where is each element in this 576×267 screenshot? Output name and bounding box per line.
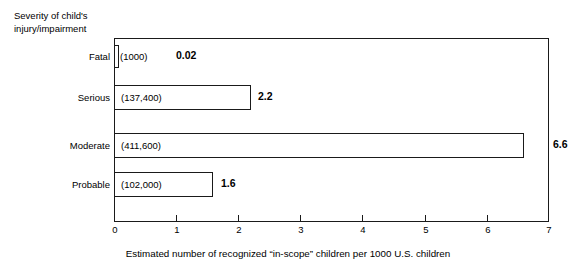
bar-value-fatal: 0.02: [176, 50, 196, 61]
x-tick-label-1: 1: [165, 224, 189, 235]
bar-moderate: [114, 133, 524, 158]
x-tick-label-3: 3: [289, 224, 313, 235]
x-tick-mark-3: [300, 215, 301, 222]
x-tick-label-0: 0: [103, 224, 127, 235]
x-tick-mark-4: [362, 215, 363, 222]
x-tick-mark-0: [114, 215, 115, 222]
bar-fatal: [114, 45, 119, 68]
category-label-fatal: Fatal: [18, 51, 110, 62]
x-tick-label-4: 4: [351, 224, 375, 235]
x-tick-mark-1: [176, 215, 177, 222]
x-tick-label-5: 5: [414, 224, 438, 235]
x-axis-title: Estimated number of recognized “in-scope…: [0, 248, 576, 260]
bar-value-serious: 2.2: [258, 91, 273, 102]
x-tick-mark-5: [425, 215, 426, 222]
bar-count-probable: (102,000): [121, 179, 162, 190]
bar-count-moderate: (411,600): [121, 140, 161, 151]
bar-value-probable: 1.6: [221, 178, 236, 189]
x-tick-label-6: 6: [476, 224, 500, 235]
bar-chart-figure: Severity of child's injury/impairment Fa…: [0, 0, 576, 267]
x-tick-mark-6: [487, 215, 488, 222]
x-tick-label-7: 7: [537, 224, 561, 235]
category-label-moderate: Moderate: [18, 140, 110, 151]
bar-value-moderate: 6.6: [553, 139, 568, 150]
category-label-serious: Serious: [18, 92, 110, 103]
category-label-probable: Probable: [18, 179, 110, 190]
x-tick-mark-2: [238, 215, 239, 222]
bar-count-serious: (137,400): [121, 92, 162, 103]
category-axis-labels: Fatal Serious Moderate Probable: [10, 0, 110, 267]
x-tick-label-2: 2: [227, 224, 251, 235]
bar-count-fatal: (1000): [120, 51, 147, 62]
